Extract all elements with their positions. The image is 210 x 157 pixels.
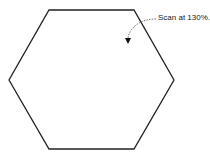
diagram-canvas	[0, 0, 210, 157]
hexagon-shape	[9, 10, 174, 149]
annotation-label: Scan at 130%.	[158, 13, 210, 22]
